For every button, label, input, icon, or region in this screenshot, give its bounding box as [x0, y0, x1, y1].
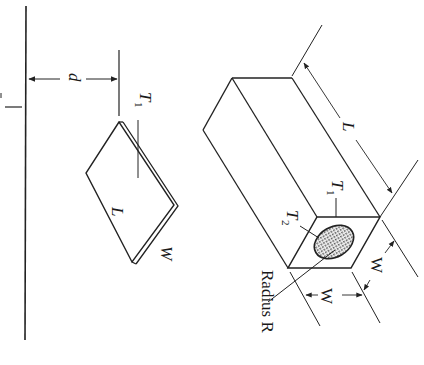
box-length-dimension: L	[292, 25, 418, 217]
distance-d-dimension: d	[29, 50, 119, 116]
svg-text:1: 1	[133, 102, 145, 108]
label-box-t2: T 2	[280, 210, 302, 226]
label-box-length: L	[339, 121, 358, 131]
circular-hole	[308, 219, 359, 266]
label-plate-width: W	[157, 246, 176, 262]
label-box-t1: T 1	[325, 180, 347, 196]
label-plate-t1: T 1	[133, 92, 155, 108]
label-box-width-b: W	[367, 257, 386, 274]
label-box-width-a: W	[317, 288, 336, 305]
diagram-canvas: d T 1 L W	[0, 0, 424, 365]
label-d: d	[65, 73, 84, 82]
svg-text:2: 2	[280, 220, 292, 226]
svg-text:Radius R: Radius R	[258, 270, 277, 333]
label-plate-length: L	[108, 206, 127, 216]
thin-plate: T 1 L W	[86, 92, 178, 264]
rectangular-duct	[203, 78, 380, 302]
reference-wall	[1, 6, 26, 340]
svg-text:1: 1	[325, 190, 337, 196]
label-radius: Radius R	[258, 270, 277, 333]
